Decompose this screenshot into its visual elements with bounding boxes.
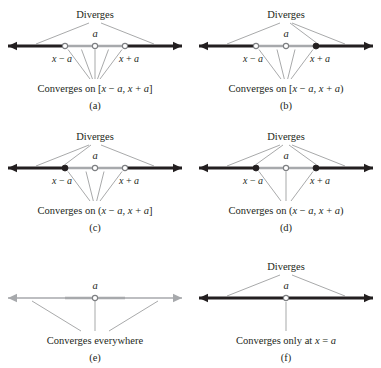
left-endpoint-open [62,43,67,48]
left-arrowhead [199,42,208,50]
center-label-b: a [283,29,288,40]
left-arrowhead [199,164,208,172]
panel-letter-d: (d) [280,223,292,234]
caption-fan-3 [288,50,295,80]
right-arrowhead [364,294,373,302]
panel-b: Divergesax − ax + aConverges on [x − a, … [191,0,381,120]
center-label-c: a [92,151,97,162]
center-point-a [283,165,288,170]
center-label-f: a [283,281,288,292]
panel-letter-b: (b) [280,101,292,112]
caption-fan-3 [97,172,104,202]
right-arrowhead [364,42,373,50]
right-arrowhead [173,164,182,172]
center-point-a [283,43,288,48]
diverges-leader-left-endpoint [65,145,91,165]
right-tick-label-d: x + a [310,176,330,186]
caption-c: Converges on (x − a, x + a] [38,206,153,217]
diverges-label-b: Diverges [267,10,305,21]
center-point-a [92,295,97,300]
caption-b: Converges on [x − a, x + a) [229,84,344,95]
panel-e-number-line [0,252,190,368]
caption-e: Converges everywhere [47,336,143,347]
left-endpoint-filled [253,165,259,171]
right-endpoint-filled [313,165,319,171]
panel-letter-e: (e) [89,353,101,364]
caption-fan-right [109,301,158,331]
diverges-leader-left-ray [227,145,280,166]
diverges-label-c: Diverges [76,132,114,143]
left-tick-label-b: x − a [243,54,263,64]
caption-d: Converges on (x − a, x + a) [229,206,344,217]
panel-a: Divergesax − ax + aConverges on [x − a, … [0,0,190,120]
panel-letter-c: (c) [89,223,101,234]
left-tick-label-a: x − a [52,54,72,64]
right-tick-label-a: x + a [119,54,139,64]
diverges-leader-left-ray [36,145,89,166]
center-point-a [92,165,97,170]
right-tick-label-b: x + a [310,54,330,64]
left-tick-label-d: x − a [243,176,263,186]
diverges-leader-right-ray [292,23,345,44]
caption-fan-2 [277,50,284,80]
diverges-leader-right-ray [292,275,345,296]
left-arrowhead [8,294,17,302]
diverges-leader-left-ray [36,23,89,44]
right-endpoint-open [122,43,127,48]
diverges-label-a: Diverges [76,10,114,21]
caption-f: Converges only at x = a [236,336,336,347]
left-arrowhead [199,294,208,302]
diverges-leader-right-ray [101,23,154,44]
left-tick-label-c: x − a [52,176,72,186]
diverges-leader-left-ray [227,275,280,296]
panel-e: aConverges everywhere(e) [0,252,190,368]
right-tick-label-c: x + a [119,176,139,186]
right-arrowhead [173,294,182,302]
panel-d: Divergesax − ax + aConverges on (x − a, … [191,122,381,242]
left-endpoint-open [253,43,258,48]
left-arrowhead [8,42,17,50]
center-point-a [283,295,288,300]
center-label-d: a [283,151,288,162]
caption-fan-2 [86,172,93,202]
diverges-leader-left-ray [227,23,280,44]
diverges-leader-right-ray [292,145,345,166]
diverges-label-d: Diverges [267,132,305,143]
diverges-label-f: Diverges [267,262,305,273]
diverges-leader-right-endpoint [289,145,316,165]
caption-fan-left [32,301,81,331]
right-endpoint-filled [313,43,319,49]
panel-f: DivergesaConverges only at x = a(f) [191,252,381,368]
diverges-leader-right-endpoint [290,23,316,43]
panel-letter-a: (a) [89,101,101,112]
right-arrowhead [173,42,182,50]
panel-c: Divergesax − ax + aConverges on (x − a, … [0,122,190,242]
left-endpoint-filled [62,165,68,171]
diverges-leader-right-ray [101,145,154,166]
center-label-a: a [92,29,97,40]
center-point-a [92,43,97,48]
right-endpoint-open [122,165,127,170]
left-arrowhead [8,164,17,172]
panel-letter-f: (f) [281,353,292,364]
diverges-leader-left-endpoint [256,145,283,165]
right-arrowhead [364,164,373,172]
center-label-e: a [92,281,97,292]
caption-a: Converges on [x − a, x + a] [38,84,153,95]
